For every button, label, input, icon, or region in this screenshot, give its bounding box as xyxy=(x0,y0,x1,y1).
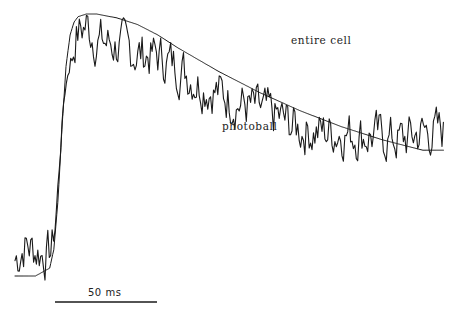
entire-cell-label: entire cell xyxy=(291,34,352,46)
scale-bar-label: 50 ms xyxy=(88,287,121,298)
photoball-label: photoball xyxy=(222,120,277,132)
photoball-trace xyxy=(15,15,443,280)
chart-canvas xyxy=(0,0,457,314)
entire-cell-trace xyxy=(15,14,443,276)
